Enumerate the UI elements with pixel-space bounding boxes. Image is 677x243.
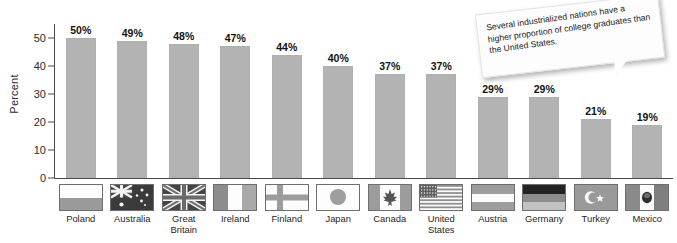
flag-ireland-icon	[213, 184, 257, 211]
flag-band	[60, 185, 102, 198]
bar-value-label: 48%	[173, 30, 194, 42]
bar	[632, 125, 662, 178]
flag-band	[472, 202, 514, 211]
legend-cell-turkey: Turkey	[570, 184, 622, 225]
legend-cell-mexico: Mexico	[622, 184, 674, 225]
bar	[169, 44, 199, 178]
bar-slot: 49%	[107, 24, 159, 178]
bar-value-label: 50%	[70, 24, 91, 36]
bar	[529, 97, 559, 178]
flag-detail	[420, 185, 462, 210]
flag-great-britain-icon	[162, 184, 206, 211]
country-name-label: Japan	[313, 214, 365, 225]
flag-canada-icon	[368, 184, 412, 211]
y-axis-tick-label: 0	[6, 172, 46, 184]
country-name-label: Finland	[261, 214, 313, 225]
country-legend: PolandAustraliaGreat BritainIrelandFinla…	[55, 184, 673, 243]
legend-cell-finland: Finland	[261, 184, 313, 225]
bar-slot: 37%	[364, 24, 416, 178]
bar	[581, 119, 611, 178]
country-name-label: Mexico	[622, 214, 674, 225]
legend-cell-poland: Poland	[55, 184, 107, 225]
y-axis-tick-label: 10	[6, 144, 46, 156]
country-name-label: Germany	[519, 214, 571, 225]
bar-value-label: 29%	[482, 83, 503, 95]
flag-detail	[626, 185, 668, 210]
flag-japan-icon	[316, 184, 360, 211]
country-name-label: Canada	[364, 214, 416, 225]
flag-band	[60, 198, 102, 211]
bar	[478, 97, 508, 178]
bar-slot: 40%	[313, 24, 365, 178]
bar-value-label: 21%	[585, 105, 606, 117]
flag-united-states-icon	[419, 184, 463, 211]
legend-cell-austria: Austria	[467, 184, 519, 225]
bar-value-label: 40%	[328, 52, 349, 64]
bar-value-label: 37%	[431, 60, 452, 72]
bar	[426, 74, 456, 178]
legend-cell-ireland: Ireland	[210, 184, 262, 225]
x-axis-line	[54, 178, 673, 179]
flag-germany-icon	[522, 184, 566, 211]
legend-cell-germany: Germany	[519, 184, 571, 225]
legend-cell-canada: Canada	[364, 184, 416, 225]
country-name-label: Turkey	[570, 214, 622, 225]
bar-slot: 44%	[261, 24, 313, 178]
flag-band	[228, 185, 242, 210]
y-axis-tick-label: 50	[6, 32, 46, 44]
y-axis-tick-label: 40	[6, 60, 46, 72]
country-name-label: United States	[416, 214, 468, 235]
bar-slot: 47%	[210, 24, 262, 178]
bar-value-label: 47%	[225, 32, 246, 44]
country-name-label: Ireland	[210, 214, 262, 225]
flag-band	[523, 194, 565, 202]
y-axis-tick-label: 30	[6, 88, 46, 100]
flag-detail	[111, 185, 153, 210]
legend-cell-united-states: United States	[416, 184, 468, 235]
bar	[323, 66, 353, 178]
annotation-text: Several industrialized nations have a hi…	[486, 0, 655, 57]
bar	[375, 74, 405, 178]
bar	[66, 38, 96, 178]
flag-finland-icon	[265, 184, 309, 211]
flag-band	[523, 202, 565, 211]
country-name-label: Poland	[55, 214, 107, 225]
flag-detail	[575, 185, 617, 210]
flag-band	[472, 185, 514, 194]
flag-band	[523, 185, 565, 194]
bar-value-label: 37%	[379, 60, 400, 72]
bar-value-label: 44%	[276, 41, 297, 53]
flag-detail	[369, 185, 411, 210]
flag-austria-icon	[471, 184, 515, 211]
flag-band	[214, 185, 228, 210]
bar-value-label: 19%	[637, 111, 658, 123]
y-axis-tick-label: 20	[6, 116, 46, 128]
bar	[272, 55, 302, 178]
bar-slot: 48%	[158, 24, 210, 178]
bar-value-label: 29%	[534, 83, 555, 95]
country-name-label: Great Britain	[158, 214, 210, 235]
flag-poland-icon	[59, 184, 103, 211]
bar-chart: Percent 01020304050 50%49%48%47%44%40%37…	[0, 0, 677, 243]
flag-australia-icon	[110, 184, 154, 211]
legend-cell-japan: Japan	[313, 184, 365, 225]
flag-detail	[163, 185, 205, 210]
country-name-label: Australia	[107, 214, 159, 225]
y-axis-ticks: 01020304050	[0, 0, 56, 243]
bar-slot: 37%	[416, 24, 468, 178]
flag-band	[242, 185, 256, 210]
country-name-label: Austria	[467, 214, 519, 225]
flag-mexico-icon	[625, 184, 669, 211]
bar-slot: 50%	[55, 24, 107, 178]
flag-detail	[266, 185, 308, 210]
bar	[220, 46, 250, 178]
legend-cell-australia: Australia	[107, 184, 159, 225]
flag-band	[472, 194, 514, 202]
flag-turkey-icon	[574, 184, 618, 211]
bar-value-label: 49%	[122, 27, 143, 39]
legend-cell-great-britain: Great Britain	[158, 184, 210, 235]
bar	[117, 41, 147, 178]
